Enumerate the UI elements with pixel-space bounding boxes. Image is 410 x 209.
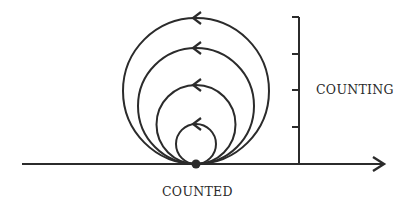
loop-circle-3	[138, 48, 254, 164]
counted-label: COUNTED	[162, 184, 233, 199]
scale-ticks	[292, 17, 299, 127]
counting-label: COUNTING	[316, 82, 394, 97]
loop-circle-1	[176, 124, 216, 164]
origin-dot	[192, 160, 201, 169]
loop-circle-4	[123, 18, 269, 164]
direction-arrow-icons	[193, 12, 201, 130]
counting-diagram	[0, 0, 410, 209]
